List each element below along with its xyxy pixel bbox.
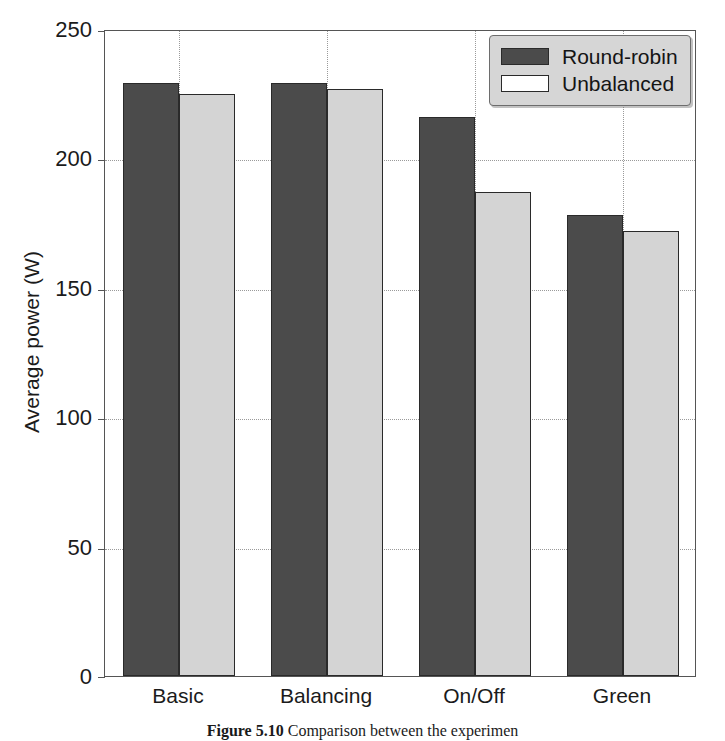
bar-green-unbalanced xyxy=(623,231,679,676)
bar-basic-round-robin xyxy=(123,83,179,676)
y-tick-mark xyxy=(98,31,105,32)
y-tick-mark xyxy=(98,549,105,550)
x-tick-label: Balancing xyxy=(280,684,372,708)
bar-balancing-unbalanced xyxy=(327,89,383,676)
bar-basic-unbalanced xyxy=(179,94,235,676)
figure-caption-label: Figure 5.10 xyxy=(207,722,284,739)
bar-green-round-robin xyxy=(567,215,623,676)
y-tick-label: 50 xyxy=(36,535,92,561)
x-tick-label: Basic xyxy=(152,684,203,708)
y-tick-mark xyxy=(98,290,105,291)
y-tick-label: 250 xyxy=(36,17,92,43)
y-tick-mark xyxy=(98,677,105,678)
legend-swatch-icon xyxy=(501,48,549,65)
y-tick-label: 200 xyxy=(36,146,92,172)
legend-item-unbalanced: Unbalanced xyxy=(501,70,678,97)
legend-swatch-icon xyxy=(501,75,549,92)
legend-item-label: Round-robin xyxy=(562,46,678,67)
y-tick-mark xyxy=(98,419,105,420)
y-axis-tick-labels: 250 200 150 100 50 0 xyxy=(30,0,92,741)
x-tick-label: On/Off xyxy=(443,684,504,708)
bar-on-off-round-robin xyxy=(419,117,475,676)
y-tick-label: 100 xyxy=(36,405,92,431)
legend-item-label: Unbalanced xyxy=(562,73,674,94)
bar-balancing-round-robin xyxy=(271,83,327,676)
y-tick-label: 0 xyxy=(36,664,92,690)
legend-item-round-robin: Round-robin xyxy=(501,43,678,70)
plot-area: Round-robin Unbalanced xyxy=(104,30,696,677)
figure-caption-text: Comparison between the experimen xyxy=(288,722,519,739)
x-tick-label: Green xyxy=(593,684,651,708)
bar-on-off-unbalanced xyxy=(475,192,531,676)
figure-caption: Figure 5.10 Comparison between the exper… xyxy=(0,722,725,740)
chart-legend: Round-robin Unbalanced xyxy=(489,35,691,106)
y-tick-mark xyxy=(98,160,105,161)
figure-container: Average power (W) 250 200 150 100 50 0 xyxy=(0,0,725,741)
y-tick-label: 150 xyxy=(36,276,92,302)
